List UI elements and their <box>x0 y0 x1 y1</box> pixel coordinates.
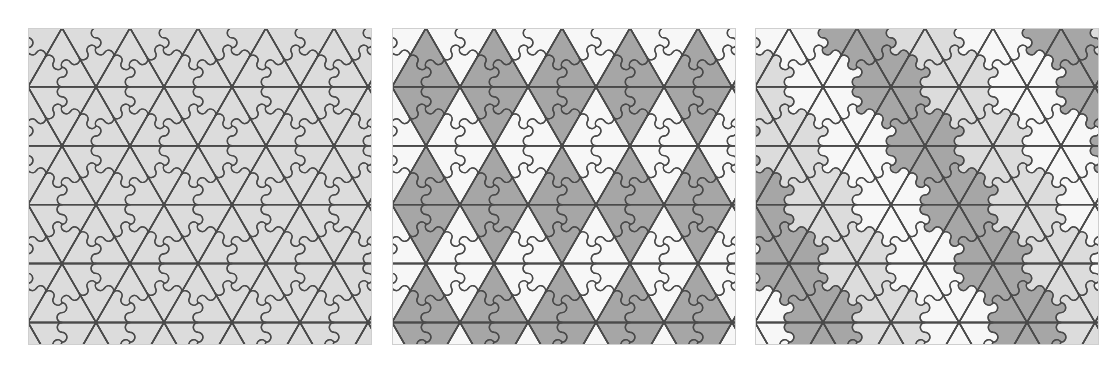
tiling-figure <box>0 0 1120 387</box>
tiling-panel-1 <box>28 28 372 345</box>
tiling-canvas <box>755 28 1099 345</box>
tiling-panel-2 <box>392 28 736 345</box>
tiling-canvas <box>392 28 736 345</box>
tiling-canvas <box>28 28 372 345</box>
tiling-panel-3 <box>755 28 1099 345</box>
